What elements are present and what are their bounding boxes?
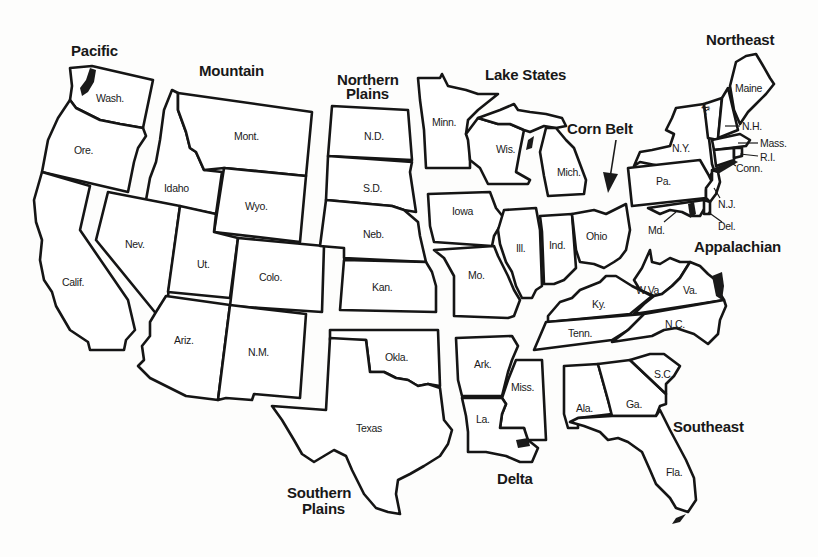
state-label-neb: Neb. [363, 228, 384, 240]
state-arizona [138, 296, 230, 400]
state-label-ore: Ore. [74, 144, 93, 156]
region-label-mountain: Mountain [199, 62, 264, 79]
state-michigan-lower [540, 128, 586, 196]
state-label-wis: Wis. [496, 143, 515, 155]
state-label-mo: Mo. [468, 269, 485, 281]
region-delta: Delta [456, 336, 546, 487]
region-label-lake-states: Lake States [485, 66, 566, 83]
region-label-southern-plains-line2: Plains [302, 500, 345, 517]
state-label-colo: Colo. [259, 271, 282, 283]
state-label-nev: Nev. [125, 238, 145, 250]
state-label-mass: Mass. [760, 137, 787, 149]
region-label-corn-belt: Corn Belt [567, 120, 633, 137]
region-label-pacific: Pacific [71, 42, 118, 59]
state-label-fla: Fla. [666, 466, 682, 478]
state-label-ut: Ut. [197, 258, 210, 270]
state-delaware [704, 200, 710, 214]
region-label-appalachian: Appalachian [694, 238, 781, 255]
florida-keys [672, 514, 686, 524]
state-label-mich: Mich. [557, 166, 581, 178]
state-label-iowa: Iowa [452, 205, 473, 217]
state-label-ala: Ala. [576, 402, 593, 414]
state-label-wash: Wash. [96, 92, 124, 104]
state-label-nm: N.M. [248, 346, 269, 358]
state-label-wyo: Wyo. [245, 200, 268, 212]
state-label-mont: Mont. [234, 130, 259, 142]
state-label-nc: N.C. [665, 318, 685, 330]
state-iowa [428, 192, 504, 246]
map-page: Corn Belt Vt. N.H. Mass. R.I. Conn. N.J.… [0, 0, 818, 557]
region-label-northeast: Northeast [706, 31, 774, 48]
state-label-ga: Ga. [626, 398, 642, 410]
state-label-nj: N.J. [718, 198, 735, 210]
state-label-ind: Ind. [549, 239, 565, 251]
region-label-southern-plains-line1: Southern [287, 484, 351, 501]
state-label-nd: N.D. [364, 130, 384, 142]
region-northeast: Vt. N.H. Mass. R.I. Conn. N.J. Del. Md. [628, 54, 787, 236]
state-label-ky: Ky. [592, 298, 606, 310]
state-label-del: Del. [718, 220, 735, 232]
state-label-okla: Okla. [385, 351, 408, 363]
region-label-delta: Delta [497, 470, 534, 487]
state-label-sc: S.C. [654, 368, 673, 380]
state-label-wva: W.Va. [636, 284, 662, 296]
md-leader [664, 212, 676, 222]
green-bay [526, 136, 534, 150]
state-label-ny: N.Y. [672, 142, 690, 154]
state-label-minn: Minn. [432, 116, 456, 128]
corn-belt-arrow-line [610, 140, 616, 178]
state-label-miss: Miss. [511, 381, 534, 393]
state-label-sd: S.D. [363, 182, 382, 194]
state-label-idaho: Idaho [164, 182, 189, 194]
state-label-kan: Kan. [372, 281, 392, 293]
state-label-pa: Pa. [656, 175, 671, 187]
state-label-calif: Calif. [62, 276, 84, 288]
corn-belt-arrow-head [603, 172, 618, 193]
state-label-ariz: Ariz. [174, 334, 194, 346]
state-label-conn: Conn. [736, 162, 763, 174]
state-label-ill: Ill. [516, 242, 525, 254]
us-farm-regions-map: Corn Belt Vt. N.H. Mass. R.I. Conn. N.J.… [0, 0, 818, 557]
region-label-southeast: Southeast [673, 418, 744, 435]
state-label-maine: Maine [735, 82, 763, 94]
state-label-la: La. [476, 413, 490, 425]
region-label-northern-plains-line2: Plains [346, 85, 389, 102]
state-label-va: Va. [683, 284, 697, 296]
state-label-ohio: Ohio [586, 230, 607, 242]
state-label-nh: N.H. [742, 120, 762, 132]
state-rhode-island [734, 148, 742, 158]
state-label-ark: Ark. [474, 358, 491, 370]
state-label-md: Md. [648, 224, 665, 236]
state-label-texas: Texas [356, 422, 382, 434]
state-label-tenn: Tenn. [568, 327, 592, 339]
